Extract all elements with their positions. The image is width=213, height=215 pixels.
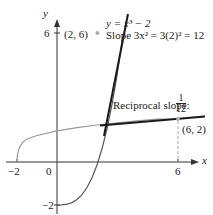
point-label-2-6: (2, 6) bbox=[64, 29, 88, 40]
reciprocal-fraction: 1 12 bbox=[176, 93, 186, 114]
point-2-6 bbox=[95, 31, 99, 35]
y-tick-label-neg2: −2 bbox=[42, 200, 54, 211]
x-tick-label-0: 0 bbox=[46, 166, 52, 177]
y-axis-label: y bbox=[43, 8, 48, 19]
inverse-function-slope-diagram: y x 6 −2 −2 0 6 y = x³ − 2 (2, 6) Slope … bbox=[0, 0, 213, 215]
equation-label: y = x³ − 2 bbox=[106, 18, 150, 29]
point-6-2 bbox=[176, 117, 180, 121]
x-axis-arrow-icon bbox=[191, 159, 199, 165]
cubic-curve bbox=[57, 33, 124, 205]
y-axis-arrow-icon bbox=[54, 19, 60, 27]
inverse-curve bbox=[17, 116, 205, 162]
slope-label: Slope 3x² = 3(2)² = 12 bbox=[106, 30, 204, 41]
x-tick-label-6: 6 bbox=[175, 166, 181, 177]
x-tick-label-neg2: −2 bbox=[8, 166, 20, 177]
point-label-6-2: (6, 2) bbox=[182, 124, 206, 135]
x-axis-label: x bbox=[202, 155, 207, 166]
y-tick-label-6: 6 bbox=[44, 28, 50, 39]
fraction-denominator: 12 bbox=[176, 104, 186, 114]
